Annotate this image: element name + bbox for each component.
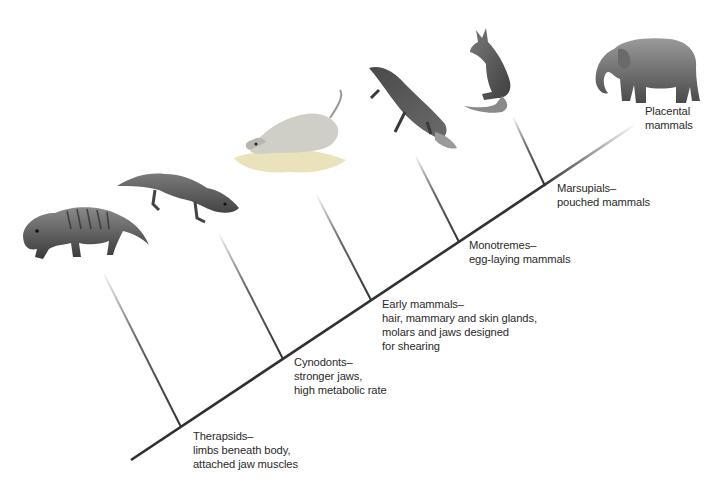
cynodont-illustration — [115, 160, 245, 228]
label-marsupials: Marsupials– pouched mammals — [557, 181, 650, 209]
label-monotremes: Monotremes– egg-laying mammals — [469, 238, 570, 266]
label-therapsids: Therapsids– limbs beneath body, attached… — [193, 429, 298, 471]
clade-trait: for shearing — [382, 339, 537, 353]
clade-trait: high metabolic rate — [294, 383, 387, 397]
clade-trait: pouched mammals — [557, 195, 650, 209]
label-early-mammals: Early mammals– hair, mammary and skin gl… — [382, 297, 537, 353]
kangaroo-illustration — [462, 22, 528, 114]
platypus-illustration — [365, 62, 465, 152]
clade-title: Marsupials– — [557, 181, 650, 195]
clade-title: Monotremes– — [469, 238, 570, 252]
mammal-evolution-cladogram: Therapsids– limbs beneath body, attached… — [0, 0, 717, 488]
early-mammal-illustration — [230, 88, 350, 183]
clade-trait: egg-laying mammals — [469, 252, 570, 266]
clade-trait: molars and jaws designed — [382, 325, 537, 339]
clade-trait: limbs beneath body, — [193, 443, 298, 457]
clade-title: mammals — [645, 118, 693, 132]
clade-title: Cynodonts– — [294, 355, 387, 369]
label-placental-mammals: Placental mammals — [645, 104, 693, 132]
clade-trait: stronger jaws, — [294, 369, 387, 383]
clade-trait: attached jaw muscles — [193, 457, 298, 471]
branch-monotremes — [415, 155, 459, 242]
clade-title: Therapsids– — [193, 429, 298, 443]
branch-marsupials — [513, 117, 545, 186]
branch-cynodonts — [218, 232, 283, 359]
branch-therapsids — [103, 272, 181, 427]
clade-trait: hair, mammary and skin glands, — [382, 311, 537, 325]
clade-title: Placental — [645, 104, 693, 118]
elephant-illustration — [592, 35, 704, 107]
label-cynodonts: Cynodonts– stronger jaws, high metabolic… — [294, 355, 387, 397]
clade-title: Early mammals– — [382, 297, 537, 311]
branch-early-mammals — [316, 194, 371, 300]
